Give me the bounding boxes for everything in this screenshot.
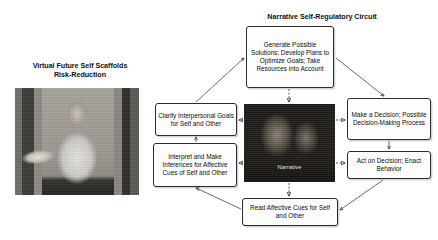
node-act-on-decision[interactable]: Act on Decision; Enact Behavior (347, 151, 431, 179)
narrative-caption: Narrative (244, 164, 335, 170)
edge-read-to-interpret (196, 188, 241, 209)
edge-clarify-to-generate (196, 58, 244, 102)
node-clarify-interpersonal-goals[interactable]: Clarify Interpersonal Goals for Self and… (155, 103, 237, 136)
edge-act-to-read (340, 180, 383, 210)
node-read-affective-cues[interactable]: Read Affective Cues for Self and Other (242, 198, 338, 226)
node-make-a-decision[interactable]: Make a Decision; Possible Decision-Makin… (347, 98, 431, 140)
node-interpret-make-inferences[interactable]: Interpret and Make Inferences for Affect… (153, 143, 237, 187)
edge-generate-to-decision (336, 58, 384, 96)
node-generate-solutions[interactable]: Generate Possible Solutions; Develop Pla… (246, 26, 334, 88)
figure-canvas: Virtual Future Self Scaffolds Risk-Reduc… (0, 0, 438, 240)
narrative-grain-overlay (244, 104, 335, 182)
narrative-media-still: Narrative (244, 104, 335, 182)
